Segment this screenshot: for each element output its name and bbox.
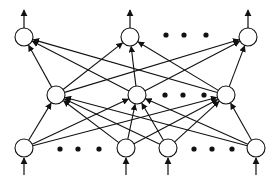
ellipsis-dot	[57, 146, 62, 151]
connection-edge	[29, 45, 52, 87]
output-neuron	[121, 28, 139, 46]
connection-edge	[131, 46, 136, 86]
connection-edge	[65, 40, 239, 93]
ellipsis-dot	[181, 32, 186, 37]
connection-edge	[128, 104, 135, 139]
connection-edge	[32, 99, 128, 144]
connection-edge	[142, 103, 164, 140]
ellipsis-dot	[191, 146, 196, 151]
hidden-neuron	[217, 86, 235, 104]
neural-network-diagram	[0, 0, 280, 183]
ellipsis-dot	[180, 92, 185, 97]
hidden-neuron	[47, 86, 65, 104]
ellipsis-dot	[162, 92, 167, 97]
connection-edge	[33, 40, 217, 93]
output-neuron	[239, 28, 257, 46]
hidden-neuron	[128, 86, 146, 104]
connection-edge	[231, 103, 252, 140]
connection-edge	[29, 103, 51, 140]
ellipsis-dot	[209, 146, 214, 151]
ellipsis-dot	[229, 146, 234, 151]
connection-edge	[145, 41, 240, 90]
input-neuron	[247, 139, 265, 157]
input-neuron	[117, 139, 135, 157]
connection-edge	[65, 97, 247, 145]
connection-edge	[134, 99, 218, 143]
connection-edge	[33, 97, 217, 145]
ellipsis-dot	[201, 92, 206, 97]
input-neuron	[159, 139, 177, 157]
connection-edge	[229, 46, 244, 87]
ellipsis-dot	[75, 146, 80, 151]
output-neuron	[15, 28, 33, 46]
input-neuron	[15, 139, 33, 157]
ellipsis-dot	[203, 32, 208, 37]
ellipsis-dot	[96, 146, 101, 151]
ellipsis-dot	[163, 32, 168, 37]
